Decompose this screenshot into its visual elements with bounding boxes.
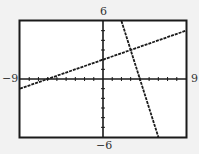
y-max-label: 6	[100, 6, 107, 17]
y-min-label: −6	[96, 140, 112, 151]
x-max-label: 9	[191, 73, 198, 84]
graph-canvas	[0, 0, 199, 154]
x-min-label: −9	[2, 73, 18, 84]
